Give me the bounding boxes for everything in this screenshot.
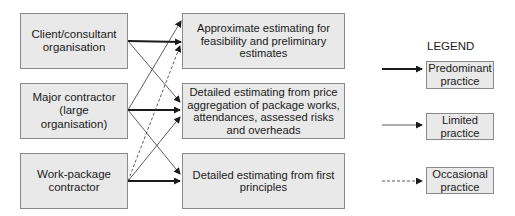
source-work-package-label: Work-package contractor <box>25 168 123 195</box>
arrow-major-firstprinciples <box>128 110 180 174</box>
target-first-principles-label: Detailed estimating from first principle… <box>187 169 340 194</box>
source-client: Client/consultant organisation <box>20 13 128 69</box>
legend-item-limited: Limited practice <box>426 113 494 140</box>
source-work-package-contractor: Work-package contractor <box>20 153 128 209</box>
target-first-principles: Detailed estimating from first principle… <box>182 153 345 209</box>
arrow-workpackage-aggregation <box>128 117 180 181</box>
legend-occasional-label: Occasional practice <box>431 168 489 194</box>
arrow-major-approx <box>128 21 181 110</box>
source-major-contractor: Major contractor (large organisation) <box>20 83 128 139</box>
target-price-aggregation: Detailed estimating from price aggregati… <box>182 83 345 139</box>
legend-item-predominant: Predominant practice <box>426 61 494 89</box>
target-approximate-label: Approximate estimating for feasibility a… <box>187 22 340 60</box>
legend-title: LEGEND <box>427 40 474 52</box>
target-aggregation-label: Detailed estimating from price aggregati… <box>187 86 340 136</box>
legend-predominant-label: Predominant practice <box>428 62 491 88</box>
legend-item-occasional: Occasional practice <box>426 167 494 194</box>
source-client-label: Client/consultant organisation <box>25 28 123 55</box>
target-approximate-estimating: Approximate estimating for feasibility a… <box>182 13 345 69</box>
legend-limited-label: Limited practice <box>431 114 489 140</box>
source-major-contractor-label: Major contractor (large organisation) <box>25 91 123 132</box>
arrow-client-aggregation <box>128 41 180 102</box>
arrow-client-approx <box>128 41 181 42</box>
